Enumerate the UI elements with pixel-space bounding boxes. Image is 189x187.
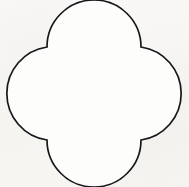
figure-canvas: Quatrefoil outline A four-lobed clover-s… <box>0 0 189 187</box>
quatrefoil-outline <box>7 0 181 187</box>
quatrefoil-figure: Quatrefoil outline A four-lobed clover-s… <box>0 0 189 187</box>
